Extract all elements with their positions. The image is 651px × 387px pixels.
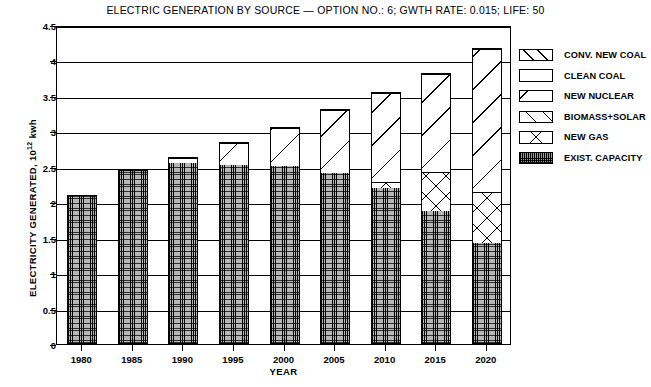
x-axis-tick <box>334 345 335 351</box>
bar-segment-exist <box>169 163 197 343</box>
legend-swatch-single-diagonal-down <box>519 69 553 82</box>
chart-figure: ELECTRIC GENERATION BY SOURCE — OPTION N… <box>0 0 651 387</box>
bar-segment-gas <box>473 192 501 243</box>
bar-2000 <box>270 127 300 344</box>
x-axis-tick-label-1990: 1990 <box>172 354 193 365</box>
bar-segment-exist <box>119 171 147 343</box>
x-axis-tick <box>182 345 183 351</box>
legend-swatch-diagonal-hatch-up-dense <box>519 111 553 124</box>
bar-2005 <box>320 109 350 344</box>
gridline <box>57 62 510 63</box>
x-axis-tick-label-1985: 1985 <box>121 354 142 365</box>
bar-segment-nuc <box>169 158 197 164</box>
x-axis-tick-label-2020: 2020 <box>475 354 496 365</box>
x-axis-tick-label-2015: 2015 <box>425 354 446 365</box>
x-axis-tick <box>435 345 436 351</box>
bar-segment-exist <box>422 211 450 343</box>
bar-1980 <box>67 195 97 344</box>
x-axis-tick-label-2010: 2010 <box>374 354 395 365</box>
x-axis-tick <box>81 345 82 351</box>
bar-1985 <box>118 170 148 344</box>
legend-swatch-dense-dot-fill <box>519 152 553 165</box>
bar-segment-exist <box>321 173 349 343</box>
bar-segment-gas <box>372 182 400 188</box>
legend-label: NEW GAS <box>564 132 609 142</box>
bar-2010 <box>371 92 401 344</box>
bar-2020 <box>472 48 502 344</box>
bar-segment-nuc <box>372 93 400 182</box>
legend-item-2: NEW NUCLEAR <box>519 87 646 105</box>
bar-segment-nuc <box>220 143 248 165</box>
chart-title: ELECTRIC GENERATION BY SOURCE — OPTION N… <box>0 4 651 16</box>
bar-segment-nuc <box>321 110 349 173</box>
x-axis-tick <box>284 345 285 351</box>
x-axis-tick <box>132 345 133 351</box>
legend-label: CONV. NEW COAL <box>564 50 646 60</box>
legend-label: NEW NUCLEAR <box>564 91 634 101</box>
x-axis-tick-label-1995: 1995 <box>222 354 243 365</box>
x-axis-tick-label-2005: 2005 <box>323 354 344 365</box>
bar-segment-exist <box>220 165 248 343</box>
gridline <box>57 27 510 28</box>
bar-segment-exist <box>473 243 501 343</box>
bar-segment-gas <box>422 172 450 211</box>
legend-item-0: CONV. NEW COAL <box>519 46 646 64</box>
y-axis: 00.511.522.533.544.5 <box>22 26 56 345</box>
x-axis-tick-label-1980: 1980 <box>71 354 92 365</box>
legend-label: BIOMASS+SOLAR <box>564 112 646 122</box>
plot-area <box>56 26 511 345</box>
bar-segment-exist <box>68 196 96 343</box>
legend-swatch-cross-hatch <box>519 131 553 144</box>
x-axis-title: YEAR <box>56 366 511 377</box>
legend-item-5: EXIST. CAPACITY <box>519 149 646 167</box>
legend-item-1: CLEAN COAL <box>519 67 646 85</box>
legend-swatch-diagonal-hatch-up <box>519 49 553 62</box>
x-axis-tick-label-2000: 2000 <box>273 354 294 365</box>
bar-segment-exist <box>271 166 299 343</box>
bar-segment-nuc <box>271 128 299 166</box>
legend-item-4: NEW GAS <box>519 128 646 146</box>
bar-1995 <box>219 142 249 344</box>
bar-2015 <box>421 73 451 345</box>
bar-segment-nuc <box>473 49 501 193</box>
x-axis-tick <box>385 345 386 351</box>
bar-segment-exist <box>372 188 400 343</box>
x-axis-tick <box>233 345 234 351</box>
x-axis-tick <box>486 345 487 351</box>
legend-swatch-diagonal-hatch-down <box>519 90 553 103</box>
legend-label: EXIST. CAPACITY <box>564 153 642 163</box>
legend-label: CLEAN COAL <box>564 71 625 81</box>
bar-1990 <box>168 157 198 344</box>
chart-legend: CONV. NEW COALCLEAN COALNEW NUCLEARBIOMA… <box>519 46 646 170</box>
legend-item-3: BIOMASS+SOLAR <box>519 108 646 126</box>
bar-segment-nuc <box>422 74 450 173</box>
